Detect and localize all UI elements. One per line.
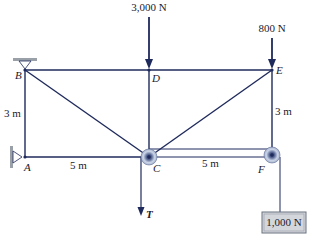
truss-members <box>25 70 272 157</box>
load-arrow-d <box>145 17 153 69</box>
tension-label: T <box>146 208 154 220</box>
node-label-a: A <box>23 161 31 173</box>
member-bc <box>25 70 149 157</box>
load-label-d: 3,000 N <box>131 1 167 13</box>
load-arrow-e <box>268 38 276 69</box>
pin-support-a <box>10 146 22 168</box>
pulley-f <box>264 147 280 163</box>
arrow-down-icon <box>138 207 145 216</box>
dim-height-left: 3 m <box>4 107 21 119</box>
node-label-f: F <box>257 163 265 175</box>
weight-box: 1,000 N <box>262 212 306 233</box>
node-label-d: D <box>151 72 160 84</box>
dim-span-cf: 5 m <box>202 157 219 169</box>
truss-diagram: 1,000 N 3,000 N 800 N B D E A C F T 3 m … <box>0 0 312 240</box>
node-label-c: C <box>153 162 161 174</box>
node-label-e: E <box>275 64 283 76</box>
member-ec <box>149 70 272 157</box>
weight-label: 1,000 N <box>266 216 302 228</box>
pin-support-b <box>13 58 37 69</box>
node-label-b: B <box>15 69 22 81</box>
arrow-down-icon <box>145 59 153 69</box>
dim-height-right: 3 m <box>275 105 292 117</box>
tension-cable <box>138 157 145 216</box>
cable-cf <box>149 149 272 157</box>
arrow-down-icon <box>268 59 276 69</box>
dim-span-ac: 5 m <box>70 159 87 171</box>
load-label-e: 800 N <box>258 22 285 34</box>
